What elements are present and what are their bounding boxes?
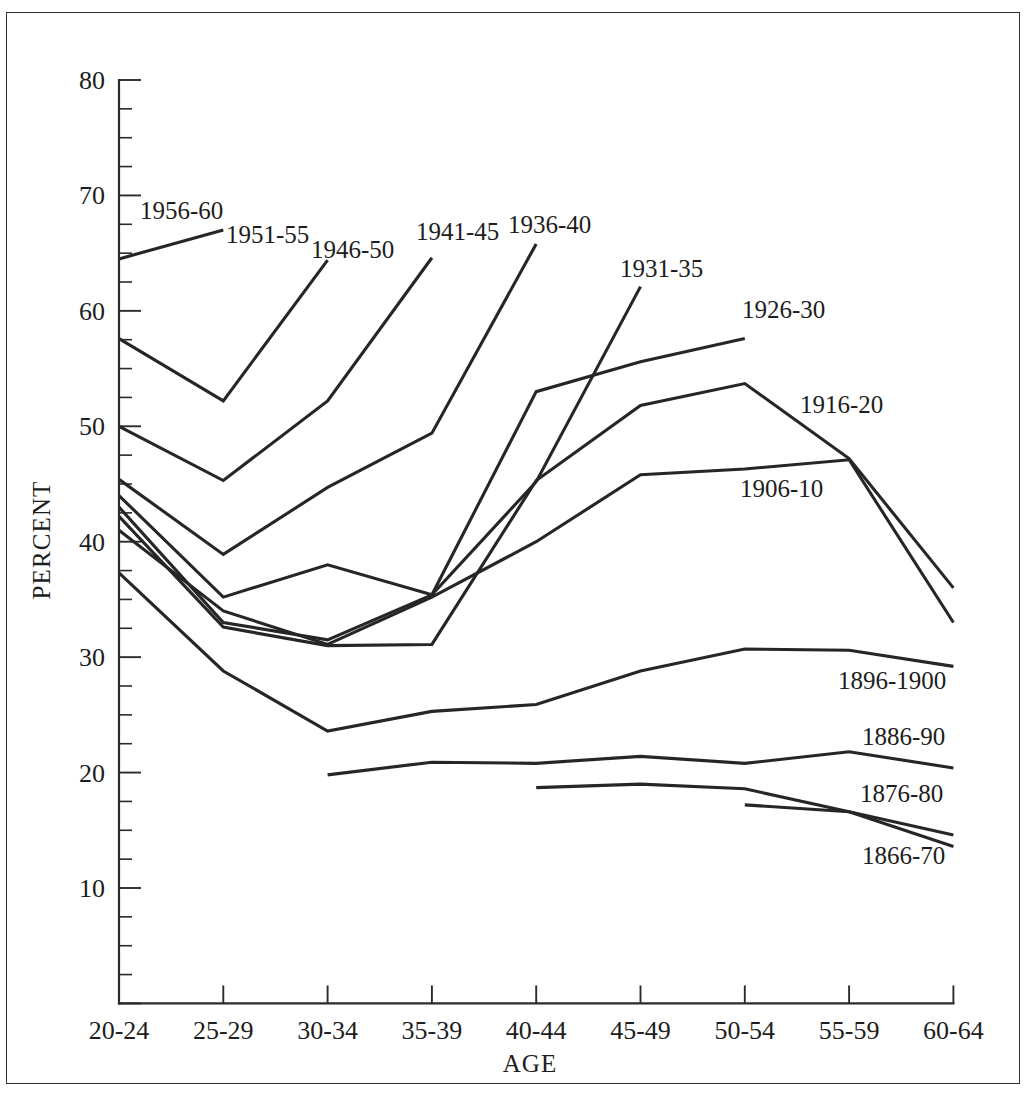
series-label: 1926-30 bbox=[742, 296, 825, 323]
series-label: 1876-80 bbox=[860, 780, 943, 807]
series-labels: 1956-601951-551946-501941-451936-401931-… bbox=[140, 197, 946, 869]
y-tick-label: 30 bbox=[79, 643, 105, 672]
chart-page: 1020304050607080 20-2425-2930-3435-3940-… bbox=[0, 0, 1031, 1112]
series-line bbox=[119, 573, 953, 731]
x-tick-label: 45-49 bbox=[610, 1016, 671, 1045]
y-tick-label: 10 bbox=[79, 874, 105, 903]
series-line bbox=[119, 287, 641, 598]
x-tick-label: 40-44 bbox=[506, 1016, 567, 1045]
series-line bbox=[119, 384, 953, 646]
y-axis-tick-labels: 1020304050607080 bbox=[79, 66, 105, 903]
x-tick-label: 60-64 bbox=[923, 1016, 984, 1045]
y-tick-label: 20 bbox=[79, 759, 105, 788]
series-label: 1931-35 bbox=[620, 255, 703, 282]
series-label: 1906-10 bbox=[740, 475, 823, 502]
series-label: 1866-70 bbox=[862, 842, 945, 869]
y-tick-label: 50 bbox=[79, 412, 105, 441]
line-chart: 1020304050607080 20-2425-2930-3435-3940-… bbox=[0, 0, 1031, 1112]
chart-svg: 1020304050607080 20-2425-2930-3435-3940-… bbox=[0, 0, 1031, 1112]
series-label: 1951-55 bbox=[226, 221, 309, 248]
series-line bbox=[119, 460, 953, 645]
series-label: 1886-90 bbox=[862, 723, 945, 750]
x-tick-label: 25-29 bbox=[193, 1016, 254, 1045]
series-line bbox=[119, 258, 432, 481]
series-label: 1936-40 bbox=[508, 211, 591, 238]
x-tick-label: 50-54 bbox=[714, 1016, 775, 1045]
y-tick-label: 70 bbox=[79, 181, 105, 210]
series-line bbox=[119, 260, 328, 401]
series-label: 1946-50 bbox=[311, 236, 394, 263]
y-axis-ticks bbox=[119, 80, 141, 1003]
x-axis-tick-labels: 20-2425-2930-3435-3940-4445-4950-5455-59… bbox=[89, 1016, 984, 1045]
series-label: 1956-60 bbox=[140, 197, 223, 224]
x-axis-ticks bbox=[119, 985, 953, 1003]
series-lines bbox=[119, 230, 953, 846]
y-tick-label: 60 bbox=[79, 297, 105, 326]
series-line bbox=[745, 805, 954, 847]
series-line bbox=[119, 339, 745, 640]
series-line bbox=[119, 230, 223, 259]
y-tick-label: 40 bbox=[79, 528, 105, 557]
x-tick-label: 55-59 bbox=[819, 1016, 880, 1045]
x-tick-label: 35-39 bbox=[402, 1016, 463, 1045]
y-axis-title: PERCENT bbox=[28, 481, 55, 600]
series-label: 1896-1900 bbox=[838, 667, 946, 694]
x-tick-label: 20-24 bbox=[89, 1016, 150, 1045]
x-axis-title: AGE bbox=[503, 1050, 558, 1077]
x-tick-label: 30-34 bbox=[297, 1016, 358, 1045]
series-line bbox=[328, 752, 954, 775]
series-label: 1941-45 bbox=[416, 218, 499, 245]
y-tick-label: 80 bbox=[79, 66, 105, 95]
series-label: 1916-20 bbox=[800, 391, 883, 418]
